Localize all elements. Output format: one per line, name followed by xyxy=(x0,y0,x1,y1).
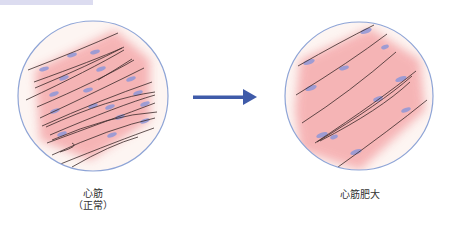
normal-muscle-circle xyxy=(18,21,168,171)
hypertrophy-muscle-circle xyxy=(285,22,433,170)
normal-muscle-label: 心筋 （正常） xyxy=(63,188,123,212)
progression-arrow-icon xyxy=(193,89,257,105)
normal-muscle-label-line1: 心筋 xyxy=(63,188,123,200)
normal-muscle-label-line2: （正常） xyxy=(63,200,123,212)
hypertrophy-label: 心筋肥大 xyxy=(320,189,400,201)
